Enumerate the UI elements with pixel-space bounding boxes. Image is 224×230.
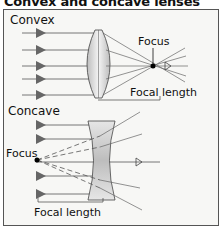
convex-ray-arrows [36,28,46,100]
concave-focal-length-label: Focal length [34,206,101,219]
convex-lens [87,30,110,98]
concave-focus-label: Focus [6,147,38,160]
convex-label: Convex [10,13,55,27]
concave-label: Concave [8,104,60,118]
convex-focus-point [151,64,156,69]
concave-lens [88,121,115,200]
convex-focal-length-label: Focal length [130,86,197,99]
lens-diagram: Convex Focus Focal length Concave [0,0,224,230]
convex-focus-label: Focus [138,35,170,48]
